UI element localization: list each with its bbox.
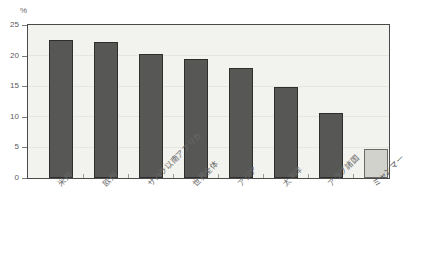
bar-chart-figure: % 0510152025 米州欧州サハラ以南アフリカ世界全体アジア太平洋アラブ諸… (0, 0, 422, 255)
y-axis-tick-label: 20 (0, 52, 19, 60)
bar-4 (184, 59, 208, 178)
gridline (28, 86, 389, 87)
x-axis-tick (128, 174, 129, 178)
bar-3 (139, 54, 163, 178)
x-axis-tick (218, 174, 219, 178)
bar-2 (94, 42, 118, 178)
bar-1 (49, 40, 73, 178)
y-axis-tick-label: 0 (0, 174, 19, 182)
y-axis-tick-label: 15 (0, 82, 19, 90)
y-axis-tick-label: 25 (0, 21, 19, 29)
bar-5 (229, 68, 253, 178)
plot-inner (28, 25, 389, 178)
x-axis-tick (83, 174, 84, 178)
bar-6 (274, 87, 298, 178)
x-axis-tick (353, 174, 354, 178)
y-axis-tick-label: 10 (0, 113, 19, 121)
y-axis-unit-label: % (20, 6, 27, 15)
y-axis-tick-label: 5 (0, 143, 19, 151)
x-axis-tick (173, 174, 174, 178)
x-axis-tick (263, 174, 264, 178)
x-axis-tick (308, 174, 309, 178)
gridline (28, 55, 389, 56)
plot-area (27, 24, 390, 179)
chart-title (0, 0, 422, 3)
